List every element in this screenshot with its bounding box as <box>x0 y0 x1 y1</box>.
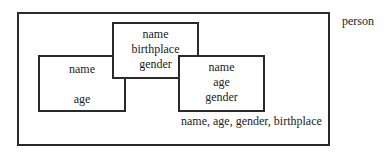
box-name-age-gender: name age gender <box>178 55 265 112</box>
attr-gender: gender <box>180 90 263 105</box>
attr-name: name <box>180 60 263 75</box>
attr-age: age <box>40 92 124 106</box>
outer-attributes-label: name, age, gender, birthplace <box>181 114 322 128</box>
attr-age: age <box>180 75 263 90</box>
attr-name: name <box>114 27 197 42</box>
set-label-person: person <box>342 14 374 28</box>
